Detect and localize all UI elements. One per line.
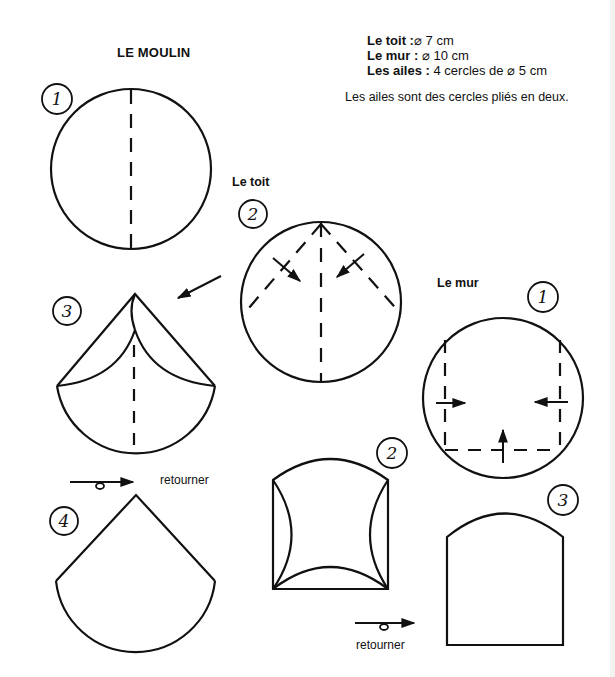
mur-step-2 bbox=[273, 438, 414, 630]
cone-outline bbox=[56, 495, 215, 581]
fold-line-left-diagonal bbox=[242, 224, 321, 316]
toit-step-3 bbox=[53, 294, 215, 453]
inner-arc-bottom bbox=[273, 567, 388, 589]
inner-arc-right bbox=[370, 480, 388, 589]
wall-outline-final bbox=[447, 514, 563, 646]
toit-step-1 bbox=[42, 84, 211, 249]
step-number: 1 bbox=[538, 287, 549, 307]
toit-step-2 bbox=[239, 200, 401, 382]
inner-arc-left bbox=[273, 480, 292, 589]
step-number: 4 bbox=[58, 511, 70, 531]
flip-loop-icon bbox=[96, 483, 104, 489]
step-number: 2 bbox=[386, 443, 398, 463]
flip-loop-icon bbox=[380, 624, 388, 630]
step-number: 2 bbox=[247, 204, 259, 224]
folding-diagram: 1 2 3 4 1 2 3 bbox=[0, 0, 615, 677]
fold-arrow-right bbox=[337, 254, 364, 277]
fold-line-right-diagonal bbox=[321, 224, 401, 314]
cone-bottom-arc bbox=[57, 386, 215, 453]
fold-arrow-left bbox=[273, 258, 300, 281]
cone-bottom-arc bbox=[56, 581, 215, 652]
step-number: 1 bbox=[52, 89, 63, 109]
inner-ridge bbox=[132, 294, 136, 330]
next-step-arrow bbox=[178, 276, 221, 298]
step-number: 3 bbox=[62, 301, 73, 321]
toit-step-4 bbox=[50, 482, 215, 652]
mur-step-1 bbox=[423, 282, 583, 478]
step-number: 3 bbox=[558, 490, 569, 510]
